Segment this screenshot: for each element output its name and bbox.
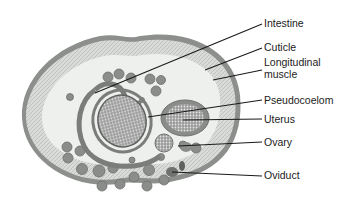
label-cuticle: Cuticle (264, 41, 296, 53)
uterus (161, 100, 209, 136)
label-ovary: Ovary (264, 136, 292, 148)
label-muscle: muscle (264, 68, 297, 80)
nematode-cross-section-diagram (0, 0, 351, 214)
label-intestine: Intestine (264, 17, 304, 29)
label-oviduct: Oviduct (264, 169, 300, 181)
label-pseudocoelom: Pseudocoelom (264, 94, 333, 106)
label-uterus: Uterus (264, 113, 295, 125)
label-longitudinal: Longitudinal (264, 56, 321, 68)
